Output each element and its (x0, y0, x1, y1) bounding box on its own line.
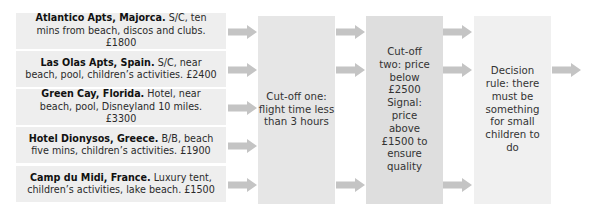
right-arrow-icon (336, 178, 365, 192)
stage-decision-rule: Decision rule: there must be something f… (474, 16, 551, 204)
option-name: Las Olas Apts, Spain. (40, 57, 154, 68)
stage-cutoff-two: Cut-off two: price below £2500 Signal: p… (366, 16, 443, 204)
right-arrow-icon (228, 25, 257, 39)
right-arrow-icon (443, 25, 472, 39)
option-dionysos: Hotel Dionysos, Greece. B/B, beach five … (16, 127, 226, 163)
right-arrow-icon (336, 25, 365, 39)
stage-label: Cut-off one: flight time less than 3 hou… (258, 91, 335, 129)
right-arrow-icon (336, 63, 365, 77)
right-arrow-icon (228, 63, 257, 77)
right-arrow-icon (228, 139, 257, 153)
option-name: Green Cay, Florida. (41, 88, 144, 99)
option-name: Hotel Dionysos, Greece. (29, 133, 159, 144)
stage-label: Cut-off two: price below £2500 Signal: p… (376, 46, 433, 174)
option-camp-du-midi: Camp du Midi, France. Luxury tent, child… (16, 166, 226, 202)
right-arrow-icon (443, 63, 472, 77)
stage-label: Decision rule: there must be something f… (483, 65, 542, 155)
right-arrow-icon (228, 178, 257, 192)
option-atlantico: Atlantico Apts, Majorca. S/C, ten mins f… (16, 13, 226, 49)
stage-cutoff-one: Cut-off one: flight time less than 3 hou… (258, 16, 335, 204)
option-name: Camp du Midi, France. (30, 172, 151, 183)
option-green-cay: Green Cay, Florida. Hotel, near beach, p… (16, 89, 226, 125)
right-arrow-icon (552, 63, 581, 77)
right-arrow-icon (228, 101, 257, 115)
option-name: Atlantico Apts, Majorca. (35, 12, 165, 23)
option-las-olas: Las Olas Apts, Spain. S/C, near beach, p… (16, 51, 226, 87)
right-arrow-icon (443, 178, 472, 192)
